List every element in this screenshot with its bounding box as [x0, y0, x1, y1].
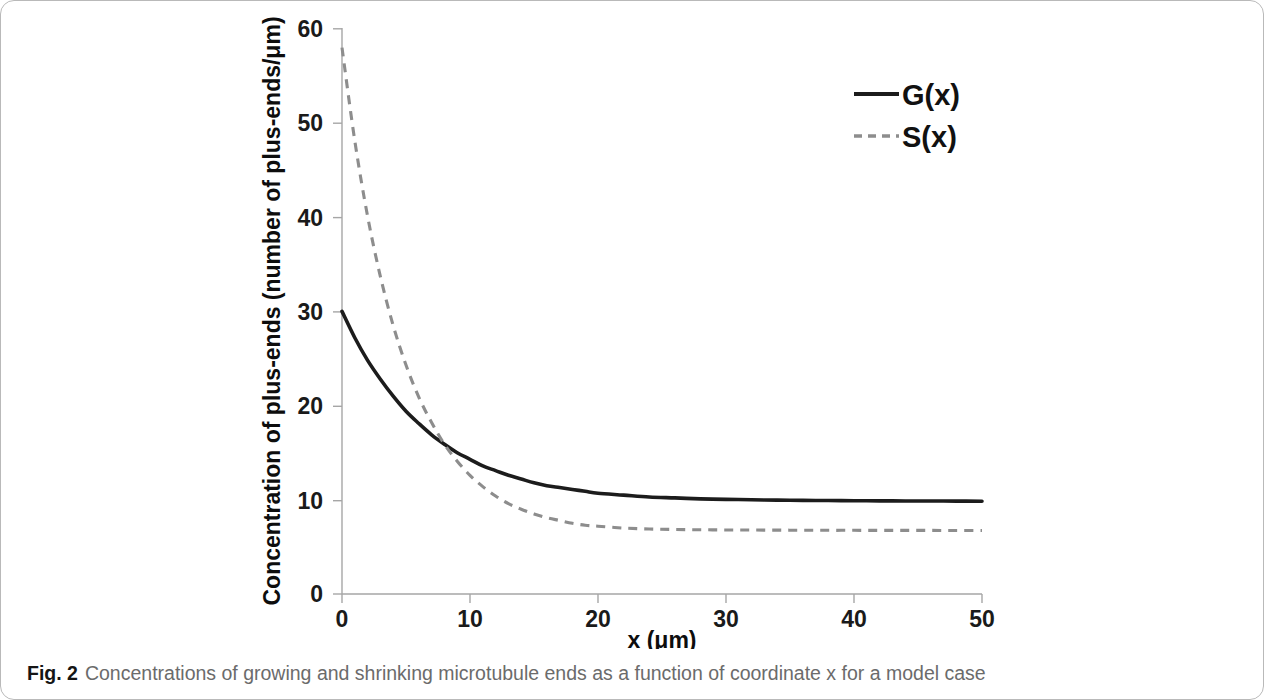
y-tick-label-0: 0: [310, 581, 323, 607]
legend-label-s-of-x: S(x): [902, 121, 957, 153]
figure-card: 0 10 20 30 40 50 60 0 10: [0, 0, 1264, 700]
x-tick-label-40: 40: [841, 606, 867, 632]
figure-caption-bar: Fig. 2Concentrations of growing and shri…: [1, 647, 1264, 699]
x-tick-label-0: 0: [336, 606, 349, 632]
chart-plot-region: 0 10 20 30 40 50 60 0 10: [1, 1, 1264, 649]
y-tick-label-50: 50: [297, 110, 323, 136]
x-tick-label-20: 20: [585, 606, 611, 632]
figure-caption: Fig. 2Concentrations of growing and shri…: [27, 662, 986, 685]
chart-legend: G(x) S(x): [854, 79, 960, 153]
concentration-line-chart: 0 10 20 30 40 50 60 0 10: [1, 1, 1264, 649]
y-tick-label-30: 30: [297, 299, 323, 325]
y-axis-title: Concentration of plus-ends (number of pl…: [259, 16, 285, 605]
figure-caption-body: Concentrations of growing and shrinking …: [85, 662, 986, 684]
y-tick-label-60: 60: [297, 16, 323, 42]
figure-caption-label: Fig. 2: [27, 662, 78, 684]
x-tick-label-10: 10: [457, 606, 483, 632]
x-axis-title: x (μm): [627, 627, 696, 649]
y-tick-label-10: 10: [297, 488, 323, 514]
y-axis-group: 0 10 20 30 40 50 60: [297, 16, 342, 607]
series-line-g-of-x: [342, 311, 982, 501]
x-axis-ticks: [342, 594, 982, 603]
x-tick-label-50: 50: [969, 606, 995, 632]
legend-label-g-of-x: G(x): [902, 79, 960, 111]
x-tick-label-30: 30: [713, 606, 739, 632]
y-tick-label-20: 20: [297, 393, 323, 419]
series-line-s-of-x: [342, 48, 982, 531]
y-tick-label-40: 40: [297, 205, 323, 231]
